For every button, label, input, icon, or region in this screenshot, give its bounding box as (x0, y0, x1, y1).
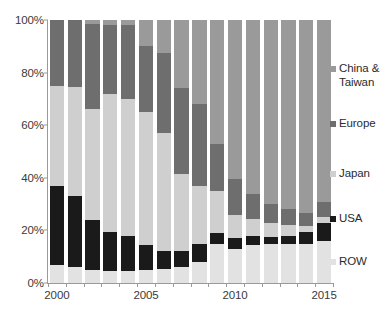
x-axis-tick (208, 283, 209, 287)
x-axis-labels: 2000200520102015 (48, 289, 334, 309)
legend-item-china-taiwan[interactable]: China & Taiwan (330, 62, 379, 89)
bar-segment-usa[interactable] (281, 236, 295, 244)
bar-segment-japan[interactable] (264, 223, 278, 237)
bar-segment-japan[interactable] (139, 112, 153, 245)
bar-segment-row[interactable] (264, 244, 278, 283)
bar-segment-usa[interactable] (85, 220, 99, 270)
bar-segment-usa[interactable] (246, 236, 260, 245)
bar-segment-row[interactable] (85, 270, 99, 283)
bar-segment-usa[interactable] (50, 186, 64, 265)
bar-segment-japan[interactable] (174, 174, 188, 252)
bar-segment-japan[interactable] (68, 87, 82, 196)
bar-segment-row[interactable] (174, 267, 188, 283)
y-axis-tick-label: 60% (21, 119, 44, 131)
bar-segment-row[interactable] (68, 267, 82, 283)
bar-2010[interactable] (228, 20, 242, 283)
bar-segment-europe[interactable] (103, 25, 117, 93)
bar-segment-row[interactable] (246, 245, 260, 283)
bar-segment-row[interactable] (299, 244, 313, 283)
bar-segment-china-taiwan[interactable] (139, 20, 153, 46)
bar-2000[interactable] (50, 20, 64, 283)
bar-segment-row[interactable] (281, 244, 295, 283)
bar-segment-japan[interactable] (281, 225, 295, 236)
bar-segment-row[interactable] (139, 270, 153, 283)
bar-segment-china-taiwan[interactable] (174, 20, 188, 88)
bar-2013[interactable] (281, 20, 295, 283)
stacked-bar-chart: 0%20%40%60%80%100% 2000200520102015 Chin… (0, 0, 392, 315)
bar-segment-china-taiwan[interactable] (246, 20, 260, 194)
bar-segment-row[interactable] (192, 262, 206, 283)
bar-segment-row[interactable] (50, 265, 64, 283)
bar-segment-europe[interactable] (85, 24, 99, 109)
bar-segment-usa[interactable] (139, 245, 153, 270)
bar-2001[interactable] (68, 20, 82, 283)
bar-segment-row[interactable] (210, 244, 224, 283)
bar-segment-europe[interactable] (264, 204, 278, 222)
bar-segment-usa[interactable] (157, 251, 171, 268)
bar-segment-china-taiwan[interactable] (264, 20, 278, 204)
bar-segment-japan[interactable] (85, 109, 99, 219)
x-axis-tick (173, 283, 174, 287)
legend-item-usa[interactable]: USA (330, 212, 362, 226)
bar-segment-japan[interactable] (192, 186, 206, 244)
bar-2011[interactable] (246, 20, 260, 283)
bar-2002[interactable] (85, 20, 99, 283)
bar-2012[interactable] (264, 20, 278, 283)
bar-2005[interactable] (139, 20, 153, 283)
bar-2008[interactable] (192, 20, 206, 283)
legend-swatch-icon (330, 171, 336, 177)
bar-segment-china-taiwan[interactable] (281, 20, 295, 209)
bar-segment-row[interactable] (121, 271, 135, 283)
bar-segment-usa[interactable] (192, 244, 206, 262)
bar-segment-japan[interactable] (210, 191, 224, 233)
bar-segment-usa[interactable] (121, 236, 135, 272)
bar-2006[interactable] (157, 20, 171, 283)
bar-segment-japan[interactable] (246, 219, 260, 236)
bar-segment-japan[interactable] (228, 215, 242, 239)
bar-segment-row[interactable] (157, 269, 171, 283)
bar-segment-japan[interactable] (103, 94, 117, 232)
bar-segment-europe[interactable] (50, 20, 64, 86)
bar-segment-japan[interactable] (50, 86, 64, 186)
bar-segment-china-taiwan[interactable] (192, 20, 206, 104)
bar-segment-europe[interactable] (139, 46, 153, 112)
bar-segment-china-taiwan[interactable] (228, 20, 242, 179)
bar-segment-china-taiwan[interactable] (210, 20, 224, 144)
bar-segment-row[interactable] (103, 271, 117, 283)
bar-segment-europe[interactable] (281, 209, 295, 225)
bar-segment-row[interactable] (228, 249, 242, 283)
x-axis-ticks (48, 283, 334, 288)
bar-2009[interactable] (210, 20, 224, 283)
x-axis-tick (137, 283, 138, 287)
bar-segment-japan[interactable] (157, 133, 171, 251)
bar-segment-europe[interactable] (68, 20, 82, 87)
bar-2003[interactable] (103, 20, 117, 283)
y-axis-tick-label: 40% (21, 172, 44, 184)
legend-item-row[interactable]: ROW (330, 255, 367, 269)
bar-segment-usa[interactable] (210, 233, 224, 244)
bar-segment-china-taiwan[interactable] (157, 20, 171, 53)
bar-2004[interactable] (121, 20, 135, 283)
bar-segment-europe[interactable] (246, 194, 260, 219)
bar-segment-europe[interactable] (157, 53, 171, 133)
bar-segment-usa[interactable] (228, 238, 242, 249)
bar-segment-usa[interactable] (299, 232, 313, 244)
bar-2015[interactable] (317, 20, 331, 283)
bar-segment-europe[interactable] (210, 144, 224, 191)
bar-segment-europe[interactable] (228, 179, 242, 215)
bar-segment-europe[interactable] (174, 88, 188, 173)
bar-segment-china-taiwan[interactable] (299, 20, 313, 213)
bar-segment-usa[interactable] (68, 196, 82, 267)
legend-item-europe[interactable]: Europe (330, 117, 375, 131)
bar-2014[interactable] (299, 20, 313, 283)
bar-segment-usa[interactable] (174, 251, 188, 267)
bar-segment-japan[interactable] (121, 99, 135, 236)
plot-area (48, 20, 333, 283)
bar-2007[interactable] (174, 20, 188, 283)
bar-segment-europe[interactable] (121, 25, 135, 99)
legend-item-japan[interactable]: Japan (330, 167, 370, 181)
x-axis-tick (66, 283, 67, 287)
bar-segment-usa[interactable] (103, 232, 117, 271)
bar-segment-europe[interactable] (192, 104, 206, 186)
bar-segment-europe[interactable] (299, 213, 313, 226)
